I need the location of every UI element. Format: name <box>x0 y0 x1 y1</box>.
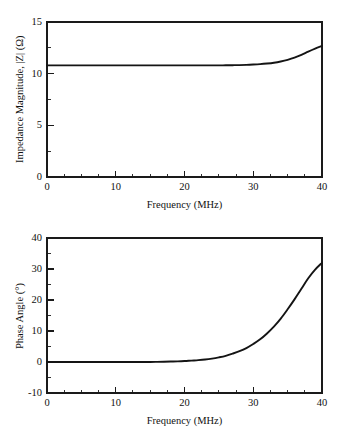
x-tick-label: 20 <box>179 398 190 409</box>
y-tick-label: 20 <box>32 295 43 306</box>
phase-angle-chart: 010203040-10010203040Frequency (MHz)Phas… <box>0 216 339 432</box>
y-tick-label: 5 <box>37 120 42 131</box>
data-series-line <box>47 46 322 65</box>
y-tick-label: 0 <box>37 357 42 368</box>
y-tick-label: 0 <box>37 172 42 183</box>
x-tick-label: 30 <box>248 398 259 409</box>
plot-area <box>0 0 339 216</box>
y-tick-label: -10 <box>28 388 42 399</box>
y-axis-title: Impedance Magnitude, |Z| (Ω) <box>14 36 25 163</box>
x-axis-title: Frequency (MHz) <box>147 415 223 426</box>
x-axis-title: Frequency (MHz) <box>147 199 223 210</box>
plot-frame <box>47 238 322 393</box>
x-tick-label: 20 <box>179 182 190 193</box>
plot-frame <box>47 22 322 177</box>
y-axis-title: Phase Angle (°) <box>14 282 25 348</box>
plot-area <box>0 216 339 432</box>
y-tick-label: 30 <box>32 264 43 275</box>
impedance-magnitude-chart: 010203040051015Frequency (MHz)Impedance … <box>0 0 339 216</box>
x-tick-label: 10 <box>111 182 122 193</box>
y-tick-label: 15 <box>32 17 43 28</box>
x-tick-label: 30 <box>248 182 259 193</box>
x-tick-label: 0 <box>44 398 49 409</box>
x-tick-label: 10 <box>111 398 122 409</box>
y-tick-label: 10 <box>32 326 43 337</box>
data-series-line <box>47 263 322 362</box>
y-tick-label: 40 <box>32 233 43 244</box>
x-tick-label: 40 <box>317 182 328 193</box>
x-tick-label: 0 <box>44 182 49 193</box>
x-tick-label: 40 <box>317 398 328 409</box>
y-tick-label: 10 <box>32 68 43 79</box>
